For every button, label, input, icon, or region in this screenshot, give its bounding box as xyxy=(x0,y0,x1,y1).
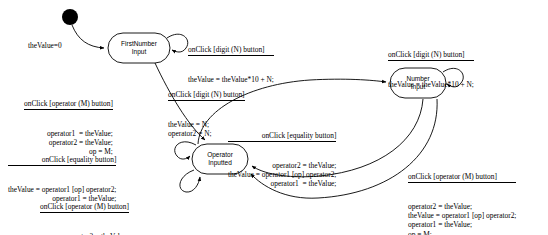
transition-guard: onClick [operator (M) button] xyxy=(24,99,113,110)
initial-transition-label: theValue=0 xyxy=(28,41,62,50)
initial-state-dot xyxy=(62,9,78,25)
transition-effect: theValue = theValue*10 + N; xyxy=(388,80,474,90)
transition-guard: onClick [operator (M) button] xyxy=(408,172,516,183)
transition-guard: onClick [digit (N) button] xyxy=(388,50,474,61)
transition-label-operator-self-m: onClick [operator (M) button] operator2 … xyxy=(40,184,129,235)
transition-effect: operator2 = theValue; theValue = operato… xyxy=(228,161,336,189)
transition-label-number-self-digit: onClick [digit (N) button] theValue = th… xyxy=(388,32,474,108)
transition-label-number-to-operator-m: onClick [operator (M) button] operator2 … xyxy=(408,154,516,235)
edge-initial-to-first xyxy=(72,25,104,48)
transition-effect: operator2 = theValue; theValue = operato… xyxy=(408,202,516,235)
transition-guard: onClick [equality button] xyxy=(228,131,336,142)
transition-guard: onClick [equality button] xyxy=(8,155,116,166)
transition-label-number-to-operator-equality: onClick [equality button] operator2 = th… xyxy=(228,113,336,207)
state-diagram-canvas: FirstNumber Input Number Input Operator … xyxy=(0,0,548,235)
state-first-number-input[interactable] xyxy=(108,33,170,63)
transition-guard: onClick [operator (M) button] xyxy=(40,202,129,213)
transition-guard: onClick [digit (N) button] xyxy=(188,45,274,56)
transition-guard: onClick [digit (N) button] xyxy=(168,90,245,101)
edge-operator-self-m xyxy=(180,170,200,192)
transition-effect: operator2 = theValue; op = M; xyxy=(40,232,129,235)
